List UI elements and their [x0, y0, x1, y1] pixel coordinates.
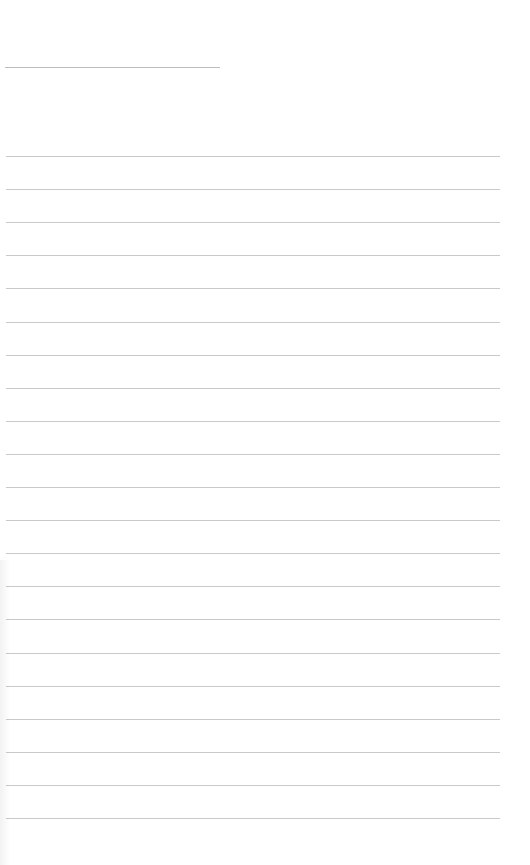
ruled-line — [6, 520, 500, 521]
ruled-line — [6, 785, 500, 786]
ruled-line — [6, 586, 500, 587]
ruled-line — [6, 388, 500, 389]
ruled-line — [6, 288, 500, 289]
ruled-line — [6, 719, 500, 720]
ruled-line — [6, 487, 500, 488]
ruled-line — [6, 686, 500, 687]
ruled-line — [6, 653, 500, 654]
ruled-line — [6, 619, 500, 620]
ruled-line — [6, 222, 500, 223]
ruled-line — [6, 322, 500, 323]
ruled-line — [6, 156, 500, 157]
ruled-line — [6, 421, 500, 422]
page-edge-shadow — [0, 560, 10, 865]
ruled-line — [6, 818, 500, 819]
ruled-line — [6, 553, 500, 554]
ruled-line — [6, 189, 500, 190]
ruled-line — [6, 454, 500, 455]
ruled-line — [6, 355, 500, 356]
title-line — [5, 67, 220, 68]
ruled-line — [6, 752, 500, 753]
ruled-line — [6, 255, 500, 256]
lined-paper-page — [0, 0, 530, 865]
